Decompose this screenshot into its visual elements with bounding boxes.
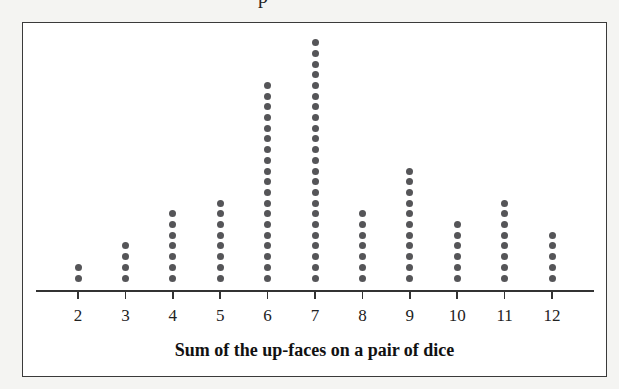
data-dot [217, 232, 224, 239]
x-tick-label: 5 [205, 306, 235, 326]
data-dot [312, 275, 319, 282]
data-dot [406, 200, 413, 207]
data-dot [312, 210, 319, 217]
data-dot [217, 264, 224, 271]
data-dot [217, 253, 224, 260]
x-tick-label: 6 [253, 306, 283, 326]
data-dot [454, 253, 461, 260]
x-tick [504, 291, 506, 299]
data-dot [454, 232, 461, 239]
x-tick [267, 291, 269, 299]
data-dot [264, 275, 271, 282]
data-dot [312, 264, 319, 271]
data-dot [75, 275, 82, 282]
x-tick [314, 291, 316, 299]
data-dot [406, 275, 413, 282]
data-dot [264, 232, 271, 239]
data-dot [264, 264, 271, 271]
data-dot [359, 232, 366, 239]
data-dot [359, 253, 366, 260]
data-dot [549, 242, 556, 249]
data-dot [501, 264, 508, 271]
x-tick [409, 291, 411, 299]
data-dot [217, 210, 224, 217]
data-dot [312, 253, 319, 260]
data-dot [169, 232, 176, 239]
data-dot [454, 221, 461, 228]
data-dot [264, 125, 271, 132]
data-dot [312, 200, 319, 207]
data-dot [312, 178, 319, 185]
data-dot [169, 275, 176, 282]
data-dot [217, 221, 224, 228]
data-dot [264, 93, 271, 100]
x-tick-label: 8 [347, 306, 377, 326]
data-dot [264, 157, 271, 164]
data-dot [549, 275, 556, 282]
data-dot [264, 189, 271, 196]
x-tick [77, 291, 79, 299]
x-tick-label: 4 [158, 306, 188, 326]
data-dot [264, 168, 271, 175]
data-dot [501, 232, 508, 239]
data-dot [312, 114, 319, 121]
x-tick-label: 7 [300, 306, 330, 326]
x-tick [551, 291, 553, 299]
x-tick [125, 291, 127, 299]
data-dot [312, 157, 319, 164]
x-tick [456, 291, 458, 299]
x-tick-label: 3 [110, 306, 140, 326]
data-dot [501, 275, 508, 282]
data-dot [406, 168, 413, 175]
data-dot [264, 82, 271, 89]
data-dot [312, 125, 319, 132]
data-dot [312, 242, 319, 249]
data-dot [549, 264, 556, 271]
data-dot [454, 264, 461, 271]
data-dot [312, 61, 319, 68]
data-dot [312, 146, 319, 153]
data-dot [549, 253, 556, 260]
data-dot [312, 71, 319, 78]
data-dot [312, 232, 319, 239]
data-dot [454, 275, 461, 282]
data-dot [312, 189, 319, 196]
x-tick-label: 2 [63, 306, 93, 326]
data-dot [312, 103, 319, 110]
data-dot [312, 135, 319, 142]
data-dot [359, 264, 366, 271]
data-dot [312, 168, 319, 175]
data-dot [549, 232, 556, 239]
x-axis-label: Sum of the up-faces on a pair of dice [22, 340, 607, 361]
data-dot [122, 264, 129, 271]
data-dot [217, 200, 224, 207]
x-tick [219, 291, 221, 299]
x-tick [362, 291, 364, 299]
data-dot [312, 39, 319, 46]
x-tick-label: 9 [395, 306, 425, 326]
data-dot [122, 253, 129, 260]
data-dot [122, 275, 129, 282]
x-tick-label: 11 [490, 306, 520, 326]
data-dot [312, 82, 319, 89]
cropped-caption-fragment: p [258, 0, 268, 6]
x-tick-label: 10 [442, 306, 472, 326]
data-dot [312, 221, 319, 228]
data-dot [264, 200, 271, 207]
data-dot [312, 50, 319, 57]
data-dot [359, 275, 366, 282]
data-dot [217, 275, 224, 282]
x-tick [172, 291, 174, 299]
data-dot [406, 232, 413, 239]
data-dot [75, 264, 82, 271]
data-dot [312, 93, 319, 100]
data-dot [501, 200, 508, 207]
x-tick-label: 12 [537, 306, 567, 326]
data-dot [359, 221, 366, 228]
